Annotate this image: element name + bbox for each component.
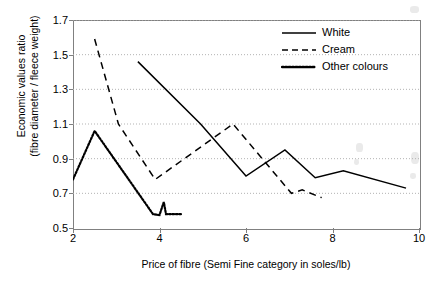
x-axis-tick-label: 8 <box>318 232 348 245</box>
legend-item-label: Other colours <box>322 61 388 72</box>
scan-artifact <box>410 6 419 13</box>
x-axis-tick-label: 2 <box>58 232 88 245</box>
chart-container: Economic values ratio (fibre diameter / … <box>0 0 443 286</box>
legend: WhiteCreamOther colours <box>281 24 413 76</box>
legend-line-swatch-icon <box>281 45 317 55</box>
x-axis-title: Price of fibre (Semi Fine category in so… <box>73 258 419 271</box>
x-axis-tick-mark <box>246 228 247 233</box>
x-axis-tick-mark <box>73 228 74 233</box>
x-axis-tick-label: 6 <box>231 232 261 245</box>
series-line-other-colours <box>73 131 181 215</box>
y-axis-tick-label: 1.1 <box>42 119 68 130</box>
x-axis-tick-labels: 246810 <box>0 232 443 248</box>
legend-item-other-colours: Other colours <box>281 58 413 75</box>
legend-item-label: Cream <box>322 44 355 55</box>
x-axis-tick-mark <box>160 228 161 233</box>
y-axis-tick-label: 1.7 <box>42 15 68 26</box>
legend-line-swatch-icon <box>281 28 317 38</box>
y-axis-tick-label: 0.9 <box>42 153 68 164</box>
x-axis-tick-mark <box>333 228 334 233</box>
y-axis-tick-label: 1.5 <box>42 49 68 60</box>
legend-item-white: White <box>281 24 413 41</box>
x-axis-tick-label: 4 <box>145 232 175 245</box>
x-axis-tick-mark <box>419 228 420 233</box>
legend-line-swatch-icon <box>281 62 317 72</box>
series-line-white <box>138 62 406 189</box>
y-axis-title-line-1: Economic values ratio <box>15 0 28 181</box>
x-axis-tick-label: 10 <box>404 232 434 245</box>
legend-item-label: White <box>322 27 350 38</box>
y-axis-tick-label: 1.3 <box>42 84 68 95</box>
legend-item-cream: Cream <box>281 41 413 58</box>
y-axis-tick-label: 0.7 <box>42 188 68 199</box>
